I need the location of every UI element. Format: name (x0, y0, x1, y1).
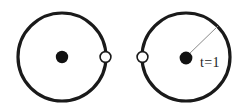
time-label: t=1 (200, 55, 220, 70)
center-dot-right (180, 52, 193, 65)
center-dot-left (56, 51, 68, 63)
orbit-marker-left (100, 52, 111, 63)
figure-container: t=1 (0, 0, 252, 111)
circle-diagram-svg: t=1 (0, 0, 252, 111)
orbit-marker-right (137, 52, 148, 63)
